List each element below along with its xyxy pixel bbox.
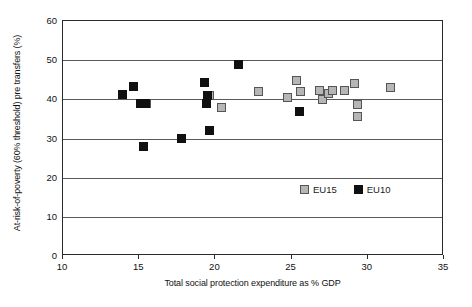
x-tick-mark-20 xyxy=(214,255,215,259)
legend-swatch-eu15 xyxy=(300,185,309,194)
data-point-eu15 xyxy=(386,83,395,92)
y-tick-label-20: 20 xyxy=(31,171,57,182)
data-point-eu15 xyxy=(328,86,337,95)
x-tick-label-30: 30 xyxy=(352,261,382,272)
chart-legend: EU15EU10 xyxy=(300,184,391,195)
plot-area xyxy=(62,20,443,255)
x-tick-mark-35 xyxy=(443,255,444,259)
data-point-eu15 xyxy=(254,87,263,96)
y-tick-label-10: 10 xyxy=(31,210,57,221)
gridline-y-20 xyxy=(63,178,442,179)
legend-label-eu15: EU15 xyxy=(313,184,337,195)
x-tick-mark-30 xyxy=(367,255,368,259)
data-point-eu10 xyxy=(141,99,150,108)
data-point-eu10 xyxy=(205,126,214,135)
legend-swatch-eu10 xyxy=(354,185,363,194)
data-point-eu10 xyxy=(139,142,148,151)
data-point-eu10 xyxy=(234,60,243,69)
data-point-eu10 xyxy=(177,134,186,143)
legend-entry-eu10: EU10 xyxy=(354,184,391,195)
data-point-eu10 xyxy=(202,99,211,108)
legend-entry-eu15: EU15 xyxy=(300,184,337,195)
x-tick-label-25: 25 xyxy=(276,261,306,272)
gridline-y-30 xyxy=(63,139,442,140)
gridline-y-40 xyxy=(63,99,442,100)
data-point-eu10 xyxy=(129,82,138,91)
x-tick-mark-25 xyxy=(291,255,292,259)
x-tick-label-35: 35 xyxy=(428,261,458,272)
x-tick-label-20: 20 xyxy=(199,261,229,272)
data-point-eu15 xyxy=(283,93,292,102)
data-point-eu15 xyxy=(217,103,226,112)
x-tick-label-10: 10 xyxy=(47,261,77,272)
y-axis-title: At-risk-of-poverty (60% threshold) pre t… xyxy=(12,8,22,258)
legend-label-eu10: EU10 xyxy=(367,184,391,195)
y-tick-label-50: 50 xyxy=(31,54,57,65)
data-point-eu15 xyxy=(296,87,305,96)
gridline-y-50 xyxy=(63,60,442,61)
chart-figure: At-risk-of-poverty (60% threshold) pre t… xyxy=(0,0,472,307)
data-point-eu15 xyxy=(315,86,324,95)
data-point-eu15 xyxy=(350,79,359,88)
y-tick-label-40: 40 xyxy=(31,93,57,104)
x-tick-mark-10 xyxy=(62,255,63,259)
data-point-eu15 xyxy=(353,112,362,121)
y-tick-label-60: 60 xyxy=(31,15,57,26)
x-tick-label-15: 15 xyxy=(123,261,153,272)
data-point-eu10 xyxy=(118,90,127,99)
x-axis-title: Total social protection expenditure as %… xyxy=(62,278,443,288)
gridline-y-10 xyxy=(63,217,442,218)
data-point-eu10 xyxy=(200,78,209,87)
x-tick-mark-15 xyxy=(138,255,139,259)
data-point-eu10 xyxy=(295,107,304,116)
data-point-eu15 xyxy=(292,76,301,85)
data-point-eu15 xyxy=(340,86,349,95)
data-point-eu15 xyxy=(353,100,362,109)
y-tick-label-30: 30 xyxy=(31,132,57,143)
y-tick-label-0: 0 xyxy=(31,250,57,261)
